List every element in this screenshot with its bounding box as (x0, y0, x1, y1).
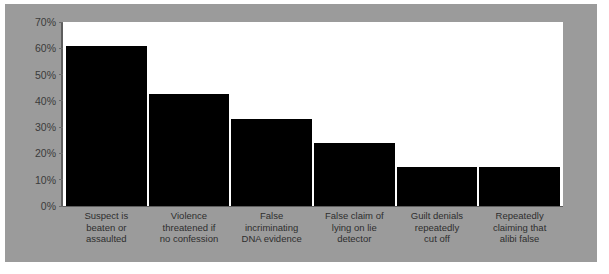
chart-figure: 70%60%50%40%30%20%10%0% Suspect isbeaten… (5, 4, 597, 262)
bar (149, 94, 230, 206)
x-axis-category-label-line: assaulted (66, 233, 147, 245)
x-axis-category-label-line: Violence (149, 210, 230, 222)
x-axis-category-label-line: cut off (397, 233, 478, 245)
x-axis-labels: Suspect isbeaten orassaultedViolencethre… (63, 210, 563, 245)
x-axis-category-label-line: no confession (149, 233, 230, 245)
x-axis-category-label-line: Repeatedly (479, 210, 560, 222)
x-axis-category-label-line: Suspect is (66, 210, 147, 222)
x-axis-category-label-line: detector (314, 233, 395, 245)
bar-slot (314, 22, 395, 206)
bar (479, 167, 560, 206)
bar-slot (66, 22, 147, 206)
bar (231, 119, 312, 206)
y-axis-tick-label: 70% (35, 17, 59, 27)
x-axis-category-label-line: alibi false (479, 233, 560, 245)
x-axis-category-label-line: repeatedly (397, 222, 478, 234)
x-axis-category-label-line: claiming that (479, 222, 560, 234)
x-axis-category-label: Suspect isbeaten orassaulted (66, 210, 147, 245)
y-axis-tick-mark (59, 74, 63, 75)
y-axis-tick-mark (59, 48, 63, 49)
x-axis-category-label: Guilt denialsrepeatedlycut off (397, 210, 478, 245)
y-axis-tick-mark (59, 206, 63, 207)
bar-slot (479, 22, 560, 206)
x-axis-line (61, 206, 563, 207)
bar (397, 167, 478, 206)
y-axis-tick-mark (59, 179, 63, 180)
y-axis-tick-mark (59, 100, 63, 101)
x-axis-category-label-line: threatened if (149, 222, 230, 234)
bar (314, 143, 395, 206)
bar-slot (149, 22, 230, 206)
bar-slot (397, 22, 478, 206)
y-axis-tick-mark (59, 22, 63, 23)
bar-slot (231, 22, 312, 206)
bar-series (63, 22, 563, 206)
x-axis-category-label-line: beaten or (66, 222, 147, 234)
x-axis-category-label: Violencethreatened ifno confession (149, 210, 230, 245)
y-axis-tick-mark (59, 153, 63, 154)
y-axis-tick-label: 0% (41, 201, 59, 211)
y-axis-tick-label: 20% (35, 148, 59, 158)
y-axis-tick-mark (59, 127, 63, 128)
x-axis-category-label-line: lying on lie (314, 222, 395, 234)
x-axis-category-label: Repeatedlyclaiming thatalibi false (479, 210, 560, 245)
x-axis-category-label-line: Guilt denials (397, 210, 478, 222)
x-axis-category-label-line: False claim of (314, 210, 395, 222)
y-axis-tick-label: 40% (35, 96, 59, 106)
bar (66, 46, 147, 206)
y-axis-tick-label: 50% (35, 70, 59, 80)
plot-area (63, 22, 563, 206)
x-axis-category-label-line: incriminating (231, 222, 312, 234)
y-axis-tick-label: 60% (35, 43, 59, 53)
x-axis-category-label: False claim oflying on liedetector (314, 210, 395, 245)
y-axis-tick-label: 10% (35, 175, 59, 185)
x-axis-category-label-line: DNA evidence (231, 233, 312, 245)
x-axis-category-label: FalseincriminatingDNA evidence (231, 210, 312, 245)
x-axis-category-label-line: False (231, 210, 312, 222)
y-axis-tick-label: 30% (35, 122, 59, 132)
